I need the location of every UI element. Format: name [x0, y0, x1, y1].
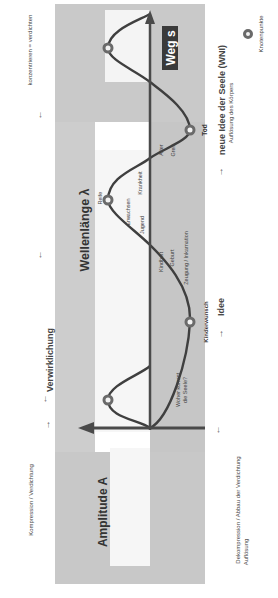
illness-label: Krankheit	[137, 171, 143, 195]
wavelength-label: Wellenlänge λ	[78, 188, 92, 271]
white-panel	[110, 448, 150, 566]
body-dissolution-label: Auflösung des Körpers	[228, 83, 234, 144]
dissolution-label: Auflösung	[243, 539, 249, 566]
arrow-down-icon: →	[37, 251, 47, 260]
arrow-down-icon: →	[42, 395, 52, 404]
youth-label: Jugend	[139, 216, 145, 234]
arrow-up-icon: →	[215, 330, 225, 339]
node-icon	[186, 126, 194, 134]
concentrate-label: konzentrieren = verdichten	[27, 15, 33, 86]
origin-question-label: die Seele?	[182, 377, 188, 403]
arrow-down-icon: →	[37, 111, 47, 120]
arrow-up-icon: →	[42, 421, 52, 430]
death-label: Tod	[201, 124, 208, 135]
birth-label: Geburt	[169, 249, 175, 266]
arrow-right-icon: →	[215, 426, 225, 435]
kinderwunsch-label: Kinderwunsch	[203, 301, 209, 343]
amplitude-label: Amplitude A	[96, 477, 110, 548]
age-label: Alter	[158, 144, 164, 155]
compression-label: Kompression / Verdichtung	[28, 464, 34, 536]
legend-node-icon	[245, 31, 252, 38]
path-label: Weg s	[164, 30, 178, 65]
arrow-up-icon: →	[215, 168, 225, 177]
node-icon	[104, 396, 112, 404]
node-icon	[186, 318, 194, 326]
decompression-label: Dekompression / Abbau der Verdichtung	[235, 456, 241, 563]
new-idea-label: neue Idee der Seele (WNI)	[217, 45, 227, 155]
origin-question-label: Woher kommt	[175, 372, 181, 407]
childhood-label: Kindheit	[158, 252, 164, 272]
node-icon	[104, 44, 112, 52]
idea-label: Idee	[216, 298, 226, 316]
gray-band	[55, 122, 95, 452]
realization-label: Verwirklichung	[45, 328, 55, 392]
node-icon	[104, 196, 112, 204]
maturity-label: Reife	[97, 192, 103, 205]
wave-of-life-diagram: Weg s Amplitude A Wellenlänge λ Kompress…	[0, 0, 278, 598]
elderly-label: Greis	[170, 143, 176, 156]
legend-label: Knotenpunkte	[258, 15, 264, 53]
conception-label: Zeugung / Inkarnation	[183, 231, 189, 285]
adult-label: Erwachsen	[125, 198, 131, 225]
